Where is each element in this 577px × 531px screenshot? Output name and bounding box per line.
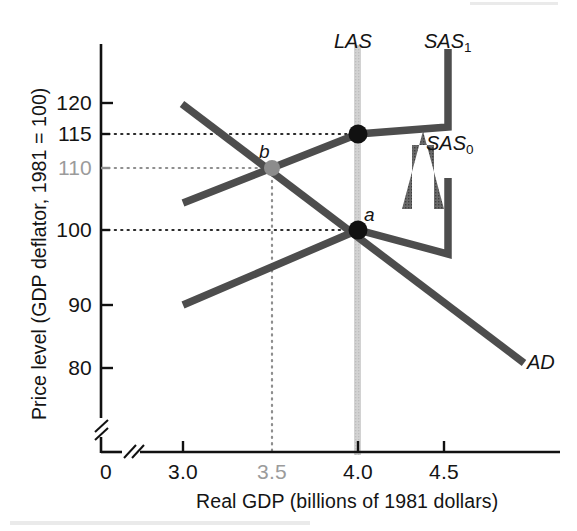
sas0-label-text: SAS xyxy=(426,132,466,154)
ad-curve-label: AD xyxy=(527,352,555,372)
axis-origin-label: 0 xyxy=(100,461,112,482)
as-ad-chart-figure: Price level (GDP deflator, 1981 = 100) 1… xyxy=(0,0,577,531)
sas1-label-subscript: 1 xyxy=(464,40,472,55)
sas0-label-subscript: 0 xyxy=(466,142,474,157)
y-tick-100: 100 xyxy=(36,219,92,240)
las-curve xyxy=(354,45,361,455)
scan-artifact-bottom xyxy=(10,521,310,525)
point-marker-b xyxy=(264,160,280,176)
x-tick-4-5: 4.5 xyxy=(414,461,474,482)
sas0-curve-label: SAS0 xyxy=(426,133,474,153)
scan-artifact-top xyxy=(470,2,558,5)
guide-lines-muted xyxy=(102,168,272,452)
x-axis xyxy=(101,441,560,458)
y-tick-110: 110 xyxy=(36,157,92,178)
chart-canvas xyxy=(0,0,577,531)
point-marker-c xyxy=(349,125,368,144)
y-tick-80: 80 xyxy=(36,357,92,378)
las-curve-label: LAS xyxy=(334,31,372,51)
x-tick-3-5: 3.5 xyxy=(242,461,302,482)
x-tick-4-0: 4.0 xyxy=(328,461,388,482)
point-label-a: a xyxy=(364,205,375,224)
sas1-curve xyxy=(183,49,448,203)
sas1-label-text: SAS xyxy=(424,30,464,52)
y-tick-120: 120 xyxy=(36,92,92,113)
x-axis-title: Real GDP (billions of 1981 dollars) xyxy=(196,492,498,512)
y-tick-90: 90 xyxy=(36,294,92,315)
y-tick-115: 115 xyxy=(36,123,92,144)
point-label-b: b xyxy=(259,142,270,161)
sas1-curve-label: SAS1 xyxy=(424,31,472,51)
x-tick-3-0: 3.0 xyxy=(153,461,213,482)
y-axis xyxy=(95,44,113,453)
